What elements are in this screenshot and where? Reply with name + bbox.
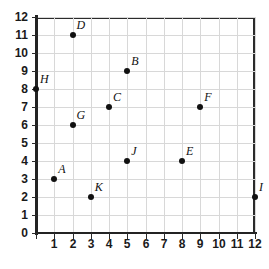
- point-label-d: D: [77, 18, 86, 33]
- point-label-j: J: [131, 144, 136, 159]
- data-point-e: [179, 158, 185, 164]
- point-label-k: K: [95, 180, 103, 195]
- y-tick-label: 5: [4, 136, 28, 150]
- point-label-b: B: [131, 54, 138, 69]
- gridline-horizontal: [36, 125, 255, 126]
- point-label-h: H: [40, 72, 49, 87]
- y-tick-mark: [32, 161, 38, 162]
- y-tick-label: 0: [4, 226, 28, 240]
- y-tick-label: 12: [4, 10, 28, 24]
- gridline-vertical: [255, 17, 256, 233]
- y-tick-mark: [32, 179, 38, 180]
- data-point-g: [70, 122, 76, 128]
- gridline-horizontal: [36, 71, 255, 72]
- data-point-i: [252, 194, 258, 200]
- y-tick-label: 11: [4, 28, 28, 42]
- gridline-horizontal: [36, 143, 255, 144]
- gridline-horizontal: [36, 197, 255, 198]
- data-point-d: [70, 32, 76, 38]
- y-tick-mark: [32, 125, 38, 126]
- data-point-c: [106, 104, 112, 110]
- y-tick-mark: [32, 17, 38, 18]
- y-tick-label: 7: [4, 100, 28, 114]
- data-point-h: [33, 86, 39, 92]
- y-tick-label: 10: [4, 46, 28, 60]
- point-label-i: I: [259, 180, 263, 195]
- gridline-horizontal: [36, 107, 255, 108]
- y-tick-label: 8: [4, 82, 28, 96]
- gridline-horizontal: [36, 161, 255, 162]
- y-tick-label: 4: [4, 154, 28, 168]
- gridline-horizontal: [36, 53, 255, 54]
- y-tick-label: 3: [4, 172, 28, 186]
- point-label-g: G: [77, 108, 86, 123]
- point-label-c: C: [113, 90, 121, 105]
- y-tick-label: 2: [4, 190, 28, 204]
- y-tick-label: 9: [4, 64, 28, 78]
- y-tick-mark: [32, 233, 38, 234]
- y-tick-label: 6: [4, 118, 28, 132]
- point-label-a: A: [58, 162, 65, 177]
- data-point-k: [88, 194, 94, 200]
- point-label-f: F: [204, 90, 211, 105]
- gridline-horizontal: [36, 35, 255, 36]
- gridline-horizontal: [36, 17, 255, 18]
- y-tick-mark: [32, 71, 38, 72]
- y-tick-mark: [32, 35, 38, 36]
- y-tick-label: 1: [4, 208, 28, 222]
- point-label-e: E: [186, 144, 193, 159]
- x-tick-label: 12: [244, 237, 266, 251]
- gridline-horizontal: [36, 179, 255, 180]
- gridline-horizontal: [36, 89, 255, 90]
- scatter-plot-figure: 123456789101112 0123456789101112 ABCDEFG…: [0, 0, 269, 269]
- y-tick-mark: [32, 107, 38, 108]
- gridline-horizontal: [36, 215, 255, 216]
- y-tick-mark: [32, 143, 38, 144]
- y-tick-mark: [32, 215, 38, 216]
- y-tick-mark: [32, 53, 38, 54]
- y-tick-mark: [32, 197, 38, 198]
